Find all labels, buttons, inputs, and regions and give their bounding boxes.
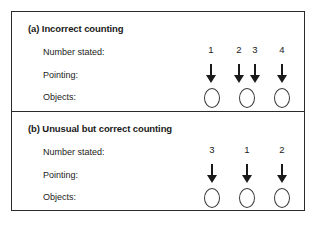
down-arrow-icon [233, 64, 245, 84]
oval-object [203, 88, 221, 110]
figure-frame: (a) Incorrect counting Number stated: Po… [11, 11, 305, 211]
oval-object [238, 188, 256, 210]
down-arrow-icon [249, 64, 261, 84]
oval-shape [239, 188, 255, 208]
oval-object [203, 188, 221, 210]
down-arrow-icon [276, 164, 288, 184]
number-stated-value: 4 [275, 44, 289, 55]
number-stated-value: 1 [240, 144, 254, 155]
panel-incorrect-counting: (a) Incorrect counting Number stated: Po… [12, 12, 304, 111]
number-stated-value: 1 [204, 44, 218, 55]
down-arrow-icon [276, 64, 288, 84]
number-stated-value: 2 [232, 44, 246, 55]
number-stated-value: 2 [275, 144, 289, 155]
oval-object [273, 88, 291, 110]
panel-unusual-correct-counting: (b) Unusual but correct counting Number … [12, 111, 304, 210]
number-stated-value: 3 [205, 144, 219, 155]
down-arrow-icon [206, 164, 218, 184]
oval-shape [204, 188, 220, 208]
oval-shape [274, 188, 290, 208]
number-stated-value: 3 [248, 44, 262, 55]
panel-a-columns: 1234 [12, 12, 304, 111]
panel-b-columns: 312 [12, 112, 304, 210]
oval-shape [204, 88, 220, 108]
oval-shape [239, 88, 255, 108]
oval-object [238, 88, 256, 110]
oval-shape [274, 88, 290, 108]
down-arrow-icon [205, 64, 217, 84]
oval-object [273, 188, 291, 210]
down-arrow-icon [241, 164, 253, 184]
